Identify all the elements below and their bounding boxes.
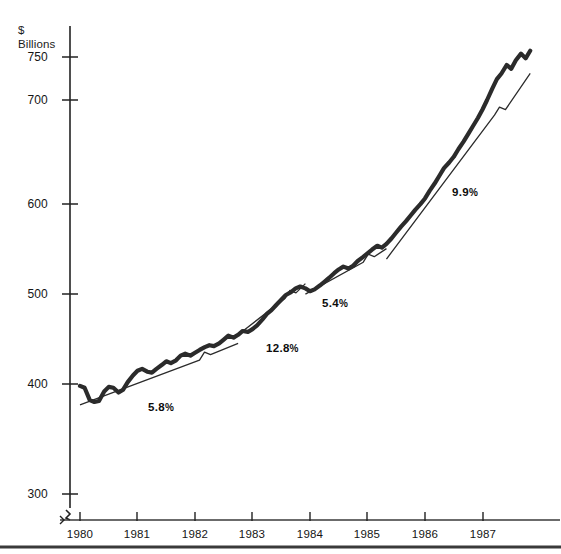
- y-axis-break-icon: [66, 510, 70, 520]
- trend-line-group: [80, 73, 530, 404]
- chart-figure: $ Billions 750 700 600 500 400 300 1980 …: [0, 0, 561, 554]
- data-series-line: [80, 51, 530, 402]
- chart-canvas: [0, 0, 561, 554]
- trend-line-9-9pct: [386, 73, 530, 259]
